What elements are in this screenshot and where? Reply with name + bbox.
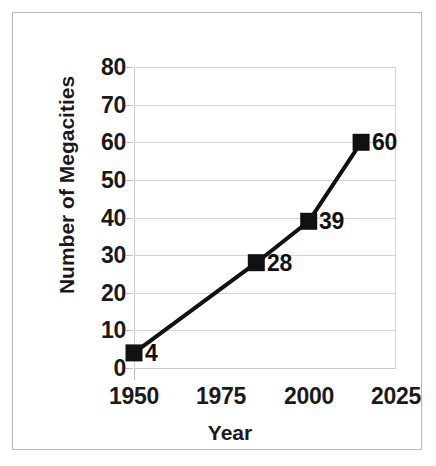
- series-markers: [126, 134, 370, 362]
- y-tick-label: 60: [70, 131, 126, 154]
- y-tick-mark: [126, 293, 133, 294]
- y-tick-mark: [126, 105, 133, 106]
- y-tick-mark: [126, 142, 133, 143]
- y-tick-label: 40: [70, 207, 126, 230]
- y-axis-tick-labels: 01020304050607080: [66, 67, 126, 368]
- y-tick-label: 20: [70, 282, 126, 305]
- data-point-label: 39: [319, 210, 344, 233]
- y-tick-label: 30: [70, 244, 126, 267]
- x-tick-label: 1950: [89, 385, 179, 408]
- y-tick-label: 70: [70, 94, 126, 117]
- y-tick-mark: [126, 180, 133, 181]
- x-tick-mark: [134, 369, 135, 380]
- y-tick-mark: [126, 218, 133, 219]
- y-tick-label: 0: [70, 357, 126, 380]
- data-point-label: 28: [267, 252, 292, 275]
- x-tick-label: 1975: [176, 385, 266, 408]
- y-tick-mark: [126, 330, 133, 331]
- x-axis-tick-labels: 1950197520002025: [134, 385, 396, 417]
- x-tick-label: 2000: [264, 385, 354, 408]
- y-tick-label: 80: [70, 56, 126, 79]
- gridline: [134, 368, 396, 369]
- y-tick-mark: [126, 368, 133, 369]
- data-point-marker: [126, 344, 143, 361]
- data-point-label: 60: [372, 131, 397, 154]
- data-series: [134, 67, 396, 368]
- y-tick-label: 50: [70, 169, 126, 192]
- y-tick-label: 10: [70, 319, 126, 342]
- series-line: [134, 142, 361, 353]
- data-point-marker: [248, 254, 265, 271]
- y-tick-mark: [126, 255, 133, 256]
- y-tick-mark: [126, 67, 133, 68]
- data-point-marker: [353, 134, 370, 151]
- x-tick-label: 2025: [351, 385, 436, 408]
- x-axis-title: Year: [25, 421, 435, 445]
- data-point-marker: [300, 213, 317, 230]
- plot-area: 4283960: [134, 67, 396, 368]
- chart-figure: Number of Megacities Year 01020304050607…: [0, 0, 436, 466]
- data-point-label: 4: [145, 342, 158, 365]
- figure-border: Number of Megacities Year 01020304050607…: [12, 12, 422, 450]
